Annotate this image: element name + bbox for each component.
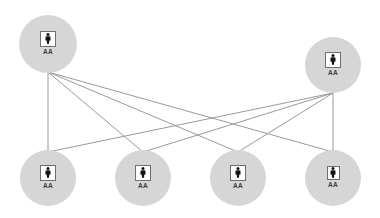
edge-top-right-to-bottom-1 [48, 93, 333, 152]
edge-top-right-to-bottom-2 [143, 93, 333, 152]
node-label: AA [43, 49, 53, 56]
person-icon [230, 165, 246, 181]
node-bottom-1[interactable]: AA [20, 150, 76, 206]
node-bottom-2[interactable]: AA [115, 150, 171, 206]
node-label: AA [138, 183, 148, 190]
edge-top-left-to-bottom-2 [48, 72, 143, 152]
person-icon [135, 165, 151, 181]
edge-top-left-to-bottom-3 [48, 72, 238, 152]
person-icon [327, 166, 340, 180]
edge-top-left-to-bottom-4 [48, 72, 333, 152]
node-label: AA [233, 183, 243, 190]
node-label: AA [328, 70, 338, 77]
person-icon [325, 52, 341, 68]
person-icon [40, 165, 56, 181]
node-top-left[interactable]: AA [19, 15, 77, 73]
edge-top-right-to-bottom-3 [238, 93, 333, 152]
node-top-right[interactable]: AA [305, 37, 361, 93]
node-bottom-4[interactable]: AA [305, 150, 361, 206]
node-label: AA [328, 182, 338, 189]
network-diagram: AA AA AA AA [0, 0, 380, 218]
person-icon [40, 31, 56, 47]
node-label: AA [43, 183, 53, 190]
node-bottom-3[interactable]: AA [210, 150, 266, 206]
